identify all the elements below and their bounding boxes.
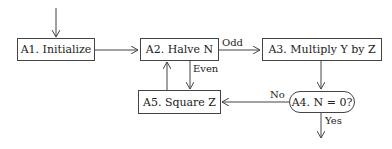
node-a1-initialize: A1. Initialize: [17, 38, 95, 61]
edge-label-no: No: [270, 89, 285, 100]
edge-label-yes: Yes: [325, 115, 342, 126]
node-label: A4. N = 0?: [292, 96, 353, 109]
edge-label-even: Even: [193, 63, 218, 74]
node-label: A3. Multiply Y by Z: [268, 43, 375, 56]
node-a5-square-z: A5. Square Z: [138, 90, 221, 114]
node-a4-n-equals-zero: A4. N = 0?: [289, 91, 355, 113]
edge-label-odd: Odd: [222, 37, 243, 48]
node-a3-multiply-y-by-z: A3. Multiply Y by Z: [262, 38, 382, 61]
connectors: [0, 0, 392, 149]
node-label: A2. Halve N: [146, 43, 213, 56]
node-label: A5. Square Z: [143, 96, 216, 109]
node-label: A1. Initialize: [21, 43, 92, 56]
node-a2-halve-n: A2. Halve N: [140, 38, 219, 61]
